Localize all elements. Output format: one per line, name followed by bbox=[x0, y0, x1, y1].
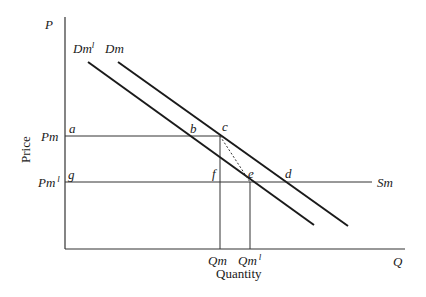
label-pm1: Pml bbox=[37, 174, 60, 190]
label-pm: Pm bbox=[40, 129, 58, 144]
point-c: c bbox=[222, 119, 228, 134]
point-g: g bbox=[68, 167, 75, 182]
label-sm: Sm bbox=[377, 175, 393, 190]
market-diagram: P Q Price Quantity Dml Dm Sm Pm Pml Qm Q… bbox=[0, 0, 426, 297]
demand-curve-dm bbox=[118, 62, 348, 226]
point-e: e bbox=[248, 166, 254, 181]
point-a: a bbox=[69, 121, 76, 136]
label-qm: Qm bbox=[208, 253, 227, 268]
x-axis-title: Quantity bbox=[216, 266, 262, 281]
x-axis-symbol: Q bbox=[393, 254, 403, 269]
point-f: f bbox=[212, 166, 218, 181]
label-dm1: Dml bbox=[72, 40, 95, 56]
label-dm: Dm bbox=[104, 41, 124, 56]
y-axis-symbol: P bbox=[44, 17, 53, 32]
point-b: b bbox=[190, 121, 197, 136]
point-d: d bbox=[285, 166, 292, 181]
y-axis-title: Price bbox=[18, 136, 33, 163]
demand-curve-dm1 bbox=[88, 62, 314, 225]
